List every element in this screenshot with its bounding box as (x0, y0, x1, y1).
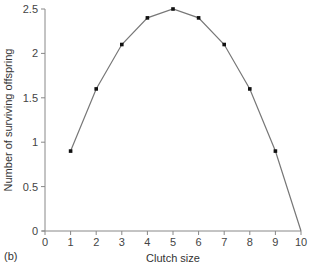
x-tick-label: 7 (221, 236, 227, 248)
data-point-marker (120, 43, 124, 47)
data-point-marker (171, 7, 175, 11)
data-line (71, 9, 301, 231)
x-tick-label: 1 (68, 236, 74, 248)
x-tick-label: 0 (42, 236, 48, 248)
y-tick-label: 2.5 (23, 3, 38, 15)
x-tick-label: 2 (93, 236, 99, 248)
x-tick-label: 4 (144, 236, 150, 248)
plot-area (69, 7, 301, 231)
x-axis-ticks: 012345678910 (42, 231, 307, 248)
y-tick-label: 1 (32, 136, 38, 148)
x-axis-title: Clutch size (146, 252, 200, 264)
data-point-marker (222, 43, 226, 47)
x-tick-label: 5 (170, 236, 176, 248)
y-tick-label: 0 (32, 225, 38, 237)
y-tick-label: 0.5 (23, 181, 38, 193)
data-point-marker (94, 87, 98, 91)
x-tick-label: 3 (119, 236, 125, 248)
x-tick-label: 9 (272, 236, 278, 248)
y-tick-label: 1.5 (23, 92, 38, 104)
y-tick-label: 2 (32, 47, 38, 59)
x-tick-label: 8 (247, 236, 253, 248)
data-point-marker (274, 149, 278, 153)
data-point-marker (197, 16, 201, 20)
line-chart: 00.511.522.5 012345678910 Clutch size Nu… (0, 0, 312, 268)
y-axis-ticks: 00.511.522.5 (23, 3, 45, 237)
x-tick-label: 6 (196, 236, 202, 248)
data-point-marker (146, 16, 150, 20)
x-tick-label: 10 (295, 236, 307, 248)
y-axis-title: Number of surviving offspring (2, 49, 14, 192)
panel-label: (b) (4, 250, 17, 262)
data-point-marker (248, 87, 252, 91)
data-point-marker (69, 149, 73, 153)
